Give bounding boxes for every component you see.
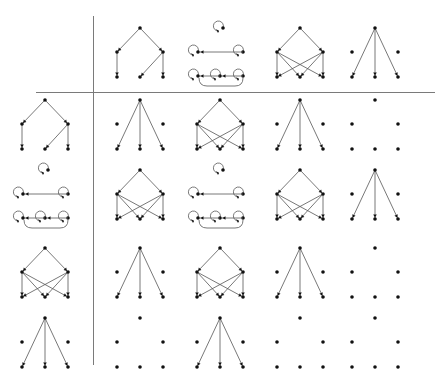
bipartite-cross-graph-icon	[7, 240, 83, 310]
bipartite-cross-graph-icon	[262, 162, 338, 232]
row-header-3	[7, 240, 83, 310]
grid-cell-r4-c2	[182, 310, 258, 380]
grid-cell-r2-c3	[262, 162, 338, 232]
star-with-isolated-graph-icon	[7, 310, 83, 380]
bipartite-cross-graph-icon	[182, 240, 258, 310]
bipartite-cross-graph-icon	[262, 20, 338, 90]
header-divider-vertical	[93, 16, 94, 365]
loop-components-graph-icon	[7, 162, 83, 232]
grid-cell-r2-c4	[337, 162, 413, 232]
star-with-isolated-graph-icon	[102, 92, 178, 162]
star-with-isolated-graph-icon	[337, 20, 413, 90]
star-with-isolated-graph-icon	[102, 240, 178, 310]
row-header-4	[7, 310, 83, 380]
column-header-2	[182, 20, 258, 90]
star-with-isolated-graph-icon	[337, 162, 413, 232]
grid-cell-r2-c2	[182, 162, 258, 232]
grid-cell-r1-c3	[262, 92, 338, 162]
row-header-2	[7, 162, 83, 232]
star-with-isolated-graph-icon	[262, 92, 338, 162]
empty-graph-icon	[337, 240, 413, 310]
grid-cell-r1-c2	[182, 92, 258, 162]
row-header-1	[7, 92, 83, 162]
column-header-1	[102, 20, 178, 90]
column-header-3	[262, 20, 338, 90]
grid-cell-r1-c4	[337, 92, 413, 162]
grid-cell-r3-c3	[262, 240, 338, 310]
loop-components-graph-icon	[182, 162, 258, 232]
grid-cell-r2-c1	[102, 162, 178, 232]
graph-table: Table of directed graphs	[0, 0, 447, 391]
grid-cell-r1-c1	[102, 92, 178, 162]
grid-cell-r4-c3	[262, 310, 338, 380]
star-with-isolated-graph-icon	[262, 240, 338, 310]
bipartite-cross-graph-icon	[182, 92, 258, 162]
grid-cell-r4-c4	[337, 310, 413, 380]
tree-graph-icon	[102, 20, 178, 90]
empty-graph-icon	[337, 92, 413, 162]
empty-graph-icon	[262, 310, 338, 380]
bipartite-cross-graph-icon	[102, 162, 178, 232]
grid-cell-r4-c1	[102, 310, 178, 380]
grid-cell-r3-c2	[182, 240, 258, 310]
grid-cell-r3-c1	[102, 240, 178, 310]
tree-graph-icon	[7, 92, 83, 162]
grid-cell-r3-c4	[337, 240, 413, 310]
star-with-isolated-graph-icon	[182, 310, 258, 380]
empty-graph-icon	[102, 310, 178, 380]
column-header-4	[337, 20, 413, 90]
empty-graph-icon	[337, 310, 413, 380]
loop-components-graph-icon	[182, 20, 258, 90]
